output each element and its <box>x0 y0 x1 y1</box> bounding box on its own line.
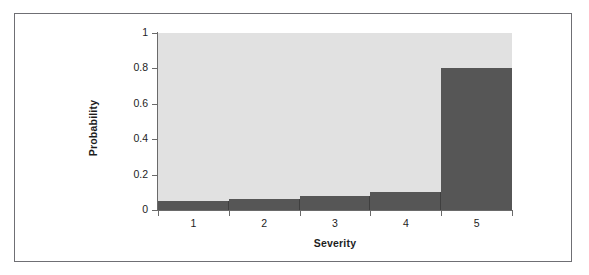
figure-border-frame: 00.20.40.60.81 12345 Probability Severit… <box>14 13 572 262</box>
x-tick-mark-2 <box>300 211 301 216</box>
y-tick-label-1: 1 <box>105 27 148 38</box>
x-tick-label-1: 1 <box>163 218 223 229</box>
y-axis-title: Probability <box>87 68 99 188</box>
x-tick-mark-1 <box>229 211 230 216</box>
x-tick-mark-0 <box>158 211 159 216</box>
x-tick-label-5: 5 <box>447 218 507 229</box>
y-tick-mark-0.4 <box>152 139 157 140</box>
y-tick-label-0.2: 0.2 <box>105 169 148 180</box>
bar-chart: 00.20.40.60.81 12345 Probability Severit… <box>15 14 573 263</box>
x-tick-mark-3 <box>370 211 371 216</box>
y-tick-mark-0.8 <box>152 68 157 69</box>
bar-severity-5 <box>441 68 512 210</box>
bar-severity-2 <box>229 199 300 210</box>
x-tick-mark-5 <box>512 211 513 216</box>
y-tick-mark-0.2 <box>152 175 157 176</box>
y-axis-line <box>157 32 158 211</box>
plot-area <box>158 33 512 210</box>
x-tick-label-3: 3 <box>305 218 365 229</box>
x-tick-label-2: 2 <box>234 218 294 229</box>
y-tick-label-0.4: 0.4 <box>105 133 148 144</box>
x-tick-label-4: 4 <box>376 218 436 229</box>
x-axis-line <box>157 210 513 211</box>
bar-severity-3 <box>300 196 371 210</box>
x-tick-mark-4 <box>441 211 442 216</box>
x-axis-title: Severity <box>158 237 512 249</box>
bar-severity-4 <box>370 192 441 210</box>
bar-severity-1 <box>158 201 229 210</box>
y-tick-label-0: 0 <box>105 204 148 215</box>
y-tick-mark-1 <box>152 33 157 34</box>
y-tick-label-0.6: 0.6 <box>105 98 148 109</box>
y-tick-mark-0.6 <box>152 104 157 105</box>
y-tick-label-0.8: 0.8 <box>105 62 148 73</box>
figure-root: 00.20.40.60.81 12345 Probability Severit… <box>0 0 589 275</box>
y-tick-mark-0 <box>152 210 157 211</box>
